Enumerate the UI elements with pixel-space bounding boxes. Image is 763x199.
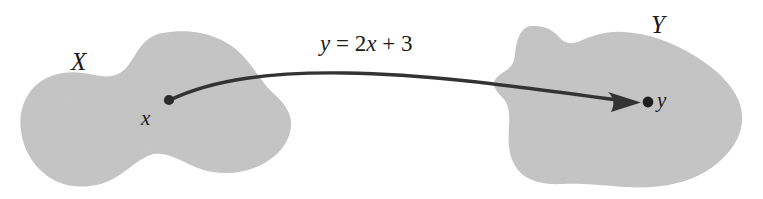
domain-point-label: x bbox=[141, 108, 150, 129]
equation-variable: y bbox=[320, 31, 330, 56]
domain-point-marker bbox=[164, 95, 174, 105]
equation-coefficient: 2 bbox=[355, 31, 367, 56]
domain-set-region bbox=[20, 31, 291, 186]
equation-constant: 3 bbox=[401, 31, 413, 56]
equation-input: x bbox=[366, 31, 376, 56]
equation-equals: = bbox=[336, 31, 349, 56]
codomain-set-label: Y bbox=[651, 12, 665, 37]
mapping-equation-label: y = 2x + 3 bbox=[320, 32, 412, 55]
codomain-point-label: y bbox=[657, 90, 666, 111]
equation-plus: + bbox=[382, 31, 395, 56]
diagram-canvas bbox=[0, 0, 763, 199]
domain-set-label: X bbox=[71, 49, 86, 74]
codomain-point-marker bbox=[643, 97, 654, 108]
mapping-diagram: X Y x y y = 2x + 3 bbox=[0, 0, 763, 199]
